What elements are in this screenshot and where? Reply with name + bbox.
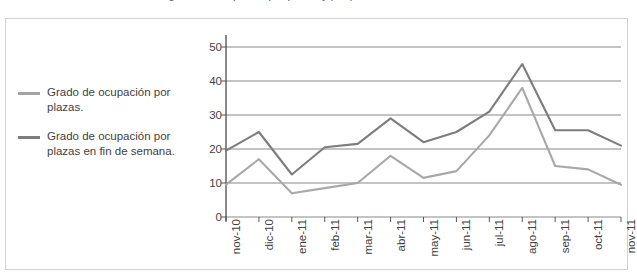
- x-axis-tick-labels: nov-10dic-10ene-11feb-11mar-11abr-11may-…: [226, 219, 626, 279]
- y-tick-label: 10: [209, 177, 222, 189]
- y-tick-label: 40: [209, 75, 222, 87]
- y-tick-label: 20: [209, 143, 222, 155]
- clipped-caption-strip: Gráfico 4: grado de ocupación por plazas…: [0, 0, 637, 13]
- x-tick-label: ene-11: [296, 219, 308, 254]
- x-tick-label: sep-11: [559, 219, 571, 253]
- x-tick-label: nov-10: [230, 219, 242, 254]
- y-tick-label: 50: [209, 41, 222, 53]
- y-axis-tick-labels: 50403020100: [196, 47, 222, 217]
- y-tick-label: 30: [209, 109, 222, 121]
- legend-label: Grado de ocupación por plazas en fin de …: [47, 129, 193, 159]
- data-series-line: [226, 88, 621, 193]
- legend-item: Grado de ocupación por plazas en fin de …: [18, 129, 193, 159]
- x-tick-label: jul-11: [493, 219, 505, 246]
- chart-legend: Grado de ocupación por plazas. Grado de …: [18, 85, 193, 173]
- x-tick-label: nov-11: [625, 219, 637, 253]
- legend-item: Grado de ocupación por plazas.: [18, 85, 193, 115]
- legend-swatch-plazas: [18, 92, 40, 95]
- plot-area: 50403020100: [196, 47, 621, 217]
- chart-canvas: [226, 47, 621, 217]
- x-tick-label: abr-11: [395, 219, 407, 251]
- x-tick-label: jun-11: [460, 219, 472, 250]
- legend-swatch-fin-de-semana: [18, 136, 40, 139]
- x-tick-label: feb-11: [329, 219, 341, 251]
- x-tick-label: ago-11: [526, 219, 538, 254]
- chart-frame: Grado de ocupación por plazas. Grado de …: [5, 18, 628, 270]
- legend-label: Grado de ocupación por plazas.: [47, 85, 193, 115]
- line-chart-svg: [226, 47, 621, 217]
- x-tick-label: mar-11: [362, 219, 374, 255]
- x-tick-label: may-11: [428, 219, 440, 257]
- x-tick-label: oct-11: [592, 219, 604, 250]
- x-tick-label: dic-10: [263, 219, 275, 250]
- clipped-caption-text: Gráfico 4: grado de ocupación por plazas…: [118, 0, 472, 1]
